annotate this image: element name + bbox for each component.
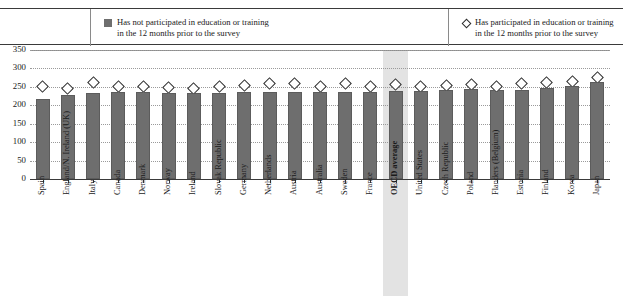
x-axis-category-label: Flanders (Belgium)	[491, 130, 500, 195]
bar	[288, 92, 302, 179]
legend-label-not-participated: Has not participated in education or tra…	[117, 17, 269, 38]
diamond-marker	[213, 80, 226, 93]
legend-divider-left	[90, 9, 91, 46]
x-axis-category-label: England/N. Ireland (UK)	[62, 111, 71, 195]
x-axis-category-label: Japan	[592, 176, 601, 195]
x-axis-category-label: Spain	[37, 176, 46, 195]
filled-square-icon	[104, 19, 112, 27]
x-axis-category-label: Ireland	[188, 171, 197, 195]
legend-entry-participated: Has participated in education or trainin…	[462, 17, 614, 38]
x-axis-category-label: Denmark	[138, 164, 147, 195]
bar	[338, 92, 352, 179]
x-axis-category-label: Italy	[88, 180, 97, 195]
legend-divider-right	[448, 9, 449, 46]
diamond-marker	[515, 78, 528, 91]
x-axis-category-label: Finland	[541, 169, 550, 195]
diamond-marker	[339, 78, 352, 91]
x-axis-category-label: Estonia	[516, 170, 525, 195]
bar	[162, 93, 176, 179]
diamond-marker	[137, 80, 150, 93]
bar	[363, 92, 377, 179]
x-axis-category-label: Austria	[289, 170, 298, 195]
legend-label-participated: Has participated in education or trainin…	[475, 17, 614, 38]
legend-entry-not-participated: Has not participated in education or tra…	[104, 17, 269, 38]
bar	[187, 93, 201, 179]
diamond-marker	[112, 80, 125, 93]
gridline	[30, 68, 610, 69]
y-axis-tick-label: 0	[0, 173, 26, 183]
y-axis-tick-label: 50	[0, 155, 26, 165]
diamond-marker	[263, 78, 276, 91]
x-axis-category-label: OECD average	[390, 141, 399, 195]
x-axis-category-label: Norway	[163, 168, 172, 195]
y-axis-tick-label: 150	[0, 118, 26, 128]
x-axis-category-label: Australia	[315, 164, 324, 195]
chart-legend: Has not participated in education or tra…	[0, 8, 623, 45]
y-axis-tick-label: 350	[0, 44, 26, 54]
bar	[565, 86, 579, 179]
bar	[86, 93, 100, 179]
x-axis-category-label: Czech Republic	[441, 142, 450, 195]
bar	[515, 90, 529, 179]
bar	[464, 89, 478, 179]
x-axis-category-label: Slovak Republic	[214, 139, 223, 195]
x-axis-category-label: Netherlands	[264, 155, 273, 195]
x-axis-category-label: Sweden	[340, 168, 349, 195]
y-axis-tick-label: 250	[0, 81, 26, 91]
diamond-marker	[314, 80, 327, 93]
diamond-marker	[36, 80, 49, 93]
y-axis-tick-label: 100	[0, 136, 26, 146]
gridline	[30, 50, 610, 51]
chart-plot-area: 050100150200250300350 SpainEngland/N. Ir…	[30, 50, 610, 179]
x-axis-category-label: United States	[415, 150, 424, 195]
x-axis-category-label: France	[365, 172, 374, 195]
y-axis-tick-label: 200	[0, 99, 26, 109]
bar	[36, 99, 50, 179]
x-axis-category-label: Canada	[113, 170, 122, 195]
bar	[590, 82, 604, 179]
diamond-marker	[61, 82, 74, 95]
bar	[540, 88, 554, 179]
diamond-marker	[238, 79, 251, 92]
x-axis-category-label: Korea	[567, 175, 576, 195]
bar	[111, 92, 125, 179]
open-diamond-icon	[462, 19, 470, 27]
x-axis-category-label: Germany	[239, 164, 248, 195]
y-axis-tick-label: 300	[0, 62, 26, 72]
x-axis-category-label: Poland	[466, 172, 475, 195]
